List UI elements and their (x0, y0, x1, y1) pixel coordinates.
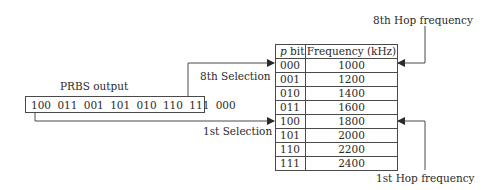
table-row: 0101400 (276, 87, 398, 101)
connector-lines (0, 0, 483, 190)
pbit-cell: 100 (276, 115, 306, 129)
table-row: 1001800 (276, 115, 398, 129)
eighth-selection-label: 8th Selection (200, 71, 271, 82)
prbs-output-box: 100 011 001 101 010 110 111 000 (25, 96, 205, 113)
frequency-cell: 1600 (306, 101, 398, 115)
table-row: 0001000 (276, 59, 398, 73)
prbs-output-label: PRBS output (60, 81, 128, 92)
table-row: 1102200 (276, 143, 398, 157)
table-row: 0111600 (276, 101, 398, 115)
pbit-cell: 000 (276, 59, 306, 73)
header-p-bit: p bit (276, 45, 306, 59)
pbit-cell: 110 (276, 143, 306, 157)
p-symbol: p (280, 45, 287, 57)
pbit-cell: 001 (276, 73, 306, 87)
first-selection-label: 1st Selection (203, 126, 272, 137)
bit-text: bit (287, 45, 305, 57)
frequency-table: p bit Frequency (kHz) 0001000 0011200 01… (275, 44, 398, 171)
table-row: 1112400 (276, 157, 398, 171)
table-row: 1012000 (276, 129, 398, 143)
first-hop-frequency-label: 1st Hop frequency (376, 173, 475, 184)
pbit-cell: 111 (276, 157, 306, 171)
pbit-cell: 011 (276, 101, 306, 115)
header-frequency: Frequency (kHz) (306, 45, 398, 59)
frequency-cell: 2400 (306, 157, 398, 171)
eighth-hop-frequency-label: 8th Hop frequency (373, 15, 473, 26)
frequency-cell: 2200 (306, 143, 398, 157)
first-hop-arrow (398, 121, 425, 170)
table-header-row: p bit Frequency (kHz) (276, 45, 398, 59)
eighth-hop-arrow (398, 26, 425, 63)
frequency-cell: 1200 (306, 73, 398, 87)
frequency-cell: 2000 (306, 129, 398, 143)
prbs-bit-sequence: 100 011 001 101 010 110 111 000 (31, 100, 236, 111)
first-selection-arrow (35, 113, 274, 121)
pbit-cell: 101 (276, 129, 306, 143)
pbit-cell: 010 (276, 87, 306, 101)
frequency-cell: 1400 (306, 87, 398, 101)
table-row: 0011200 (276, 73, 398, 87)
frequency-cell: 1800 (306, 115, 398, 129)
frequency-cell: 1000 (306, 59, 398, 73)
